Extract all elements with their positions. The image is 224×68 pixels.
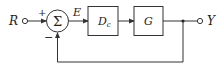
- minus-sign: −: [44, 31, 53, 44]
- input-label-r: R: [8, 14, 18, 28]
- feedback-path: [58, 21, 184, 62]
- input-terminal: [22, 18, 27, 23]
- sigma-symbol: Σ: [53, 14, 62, 29]
- block-diagram: R + Σ − E Dc G Y: [0, 0, 224, 68]
- error-label-e: E: [72, 6, 81, 19]
- plus-sign: +: [38, 7, 46, 18]
- controller-block-dc: Dc: [88, 7, 118, 36]
- plant-block-g: G: [134, 7, 163, 36]
- summing-junction: Σ: [47, 10, 69, 32]
- output-label-y: Y: [207, 14, 216, 28]
- plant-label: G: [144, 15, 153, 28]
- output-terminal: [197, 18, 202, 23]
